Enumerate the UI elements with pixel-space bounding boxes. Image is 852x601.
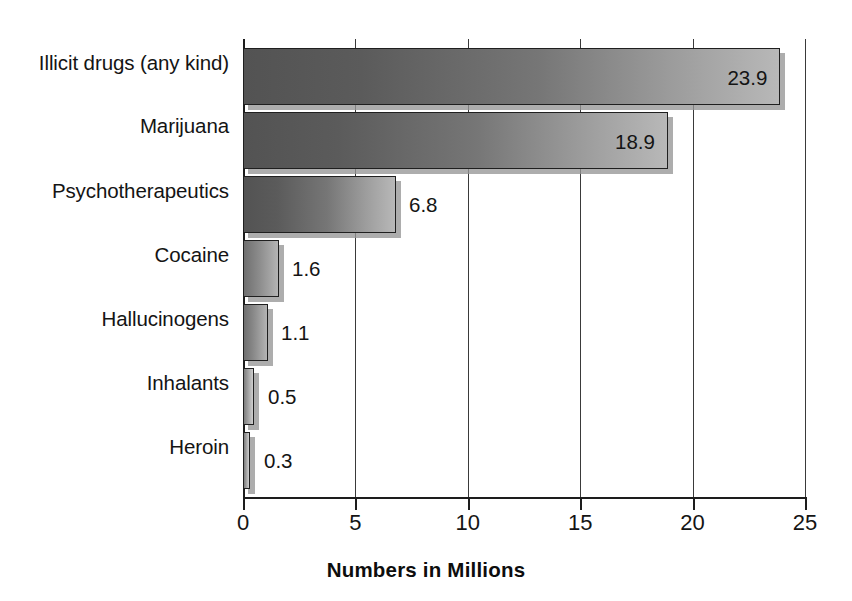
- bar-value-label: 6.8: [409, 195, 438, 216]
- plot-area: 23.9 18.9 6.8 1.6 1.1 0.5: [243, 39, 805, 497]
- bar-row: 1.6: [243, 240, 805, 297]
- category-label: Cocaine: [154, 245, 229, 266]
- x-tick-label: 10: [456, 512, 480, 534]
- category-axis-labels: Illicit drugs (any kind) Marijuana Psych…: [0, 39, 236, 497]
- gridline-25: [805, 39, 806, 497]
- x-tick-label: 0: [237, 512, 249, 534]
- x-tick-20: [693, 497, 695, 510]
- bar-row: 18.9: [243, 112, 805, 169]
- x-tick-label: 15: [568, 512, 592, 534]
- bar-value-label: 1.1: [281, 323, 310, 344]
- bar-illicit-drugs-any-kind: 23.9: [243, 48, 780, 105]
- x-tick-10: [468, 497, 470, 510]
- bar-row: 6.8: [243, 176, 805, 233]
- bar-value-label: 0.3: [264, 451, 293, 472]
- bar-value-label: 1.6: [292, 259, 321, 280]
- bar-value-label: 18.9: [615, 132, 655, 153]
- bar-value-label: 23.9: [727, 68, 767, 89]
- bar-row: 23.9: [243, 48, 805, 105]
- bar-row: 1.1: [243, 304, 805, 361]
- x-tick-label: 20: [680, 512, 704, 534]
- x-axis-line: [243, 497, 806, 499]
- bar-cocaine: [243, 240, 279, 297]
- category-label: Inhalants: [147, 373, 229, 394]
- category-label: Heroin: [169, 437, 229, 458]
- bar-value-label: 0.5: [268, 387, 297, 408]
- x-tick-15: [580, 497, 582, 510]
- x-tick-25: [805, 497, 807, 510]
- bar-hallucinogens: [243, 304, 268, 361]
- x-tick-0: [243, 497, 245, 510]
- bar-marijuana: 18.9: [243, 112, 668, 169]
- x-tick-label: 25: [793, 512, 817, 534]
- bar-psychotherapeutics: [243, 176, 396, 233]
- bar-heroin: [243, 432, 250, 489]
- bar-row: 0.3: [243, 432, 805, 489]
- category-label: Illicit drugs (any kind): [39, 53, 229, 74]
- x-axis-title: Numbers in Millions: [0, 558, 852, 582]
- bar-chart: Illicit drugs (any kind) Marijuana Psych…: [0, 0, 852, 601]
- bar-inhalants: [243, 368, 254, 425]
- category-label: Marijuana: [140, 116, 229, 137]
- bar-row: 0.5: [243, 368, 805, 425]
- category-label: Hallucinogens: [102, 309, 229, 330]
- x-tick-5: [355, 497, 357, 510]
- category-label: Psychotherapeutics: [52, 181, 229, 202]
- x-tick-label: 5: [349, 512, 361, 534]
